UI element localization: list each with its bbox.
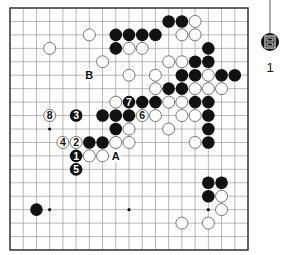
white-stone bbox=[123, 136, 135, 148]
black-stone bbox=[189, 55, 202, 68]
white-stone bbox=[176, 56, 188, 68]
white-stone bbox=[97, 56, 109, 68]
white-stone bbox=[176, 110, 188, 122]
white-stone bbox=[202, 217, 214, 229]
black-stone bbox=[202, 96, 215, 109]
white-stone bbox=[216, 204, 228, 216]
white-stone bbox=[149, 110, 161, 122]
white-stone bbox=[176, 96, 188, 108]
white-stone bbox=[83, 29, 95, 41]
star-point bbox=[207, 208, 210, 211]
white-stone bbox=[189, 110, 201, 122]
white-stone bbox=[176, 29, 188, 41]
white-stone bbox=[216, 83, 228, 95]
black-stone bbox=[202, 55, 215, 68]
white-stone bbox=[110, 96, 122, 108]
black-stone bbox=[83, 136, 96, 149]
black-stone bbox=[136, 96, 149, 109]
black-stone bbox=[189, 96, 202, 109]
black-stone bbox=[176, 15, 189, 28]
star-point bbox=[48, 208, 51, 211]
white-stone bbox=[149, 69, 161, 81]
white-stone bbox=[163, 96, 175, 108]
black-stone bbox=[202, 190, 215, 203]
black-stone bbox=[109, 109, 122, 122]
white-stone bbox=[189, 136, 201, 148]
black-stone bbox=[136, 29, 149, 42]
black-stone bbox=[30, 203, 43, 216]
point-label: B bbox=[85, 69, 93, 81]
black-stone bbox=[109, 29, 122, 42]
black-stone bbox=[123, 109, 136, 122]
black-stone bbox=[123, 29, 136, 42]
move-number: 4 bbox=[60, 136, 66, 148]
move-number: 1 bbox=[73, 150, 79, 162]
white-stone bbox=[189, 15, 201, 27]
black-stone bbox=[109, 42, 122, 55]
black-stone bbox=[149, 96, 162, 109]
side-marker: 1 bbox=[261, 0, 279, 75]
move-number: 3 bbox=[73, 109, 79, 121]
black-stone bbox=[228, 69, 241, 82]
white-stone bbox=[83, 150, 95, 162]
black-stone bbox=[202, 176, 215, 189]
black-stone bbox=[202, 42, 215, 55]
move-number: 6 bbox=[139, 109, 145, 121]
white-stone bbox=[97, 150, 109, 162]
white-stone bbox=[163, 56, 175, 68]
black-stone bbox=[176, 69, 189, 82]
star-point bbox=[127, 208, 130, 211]
black-stone bbox=[96, 109, 109, 122]
white-stone bbox=[44, 42, 56, 54]
white-stone bbox=[163, 123, 175, 135]
white-stone bbox=[136, 42, 148, 54]
black-stone bbox=[176, 82, 189, 95]
move-number: 5 bbox=[73, 163, 79, 175]
white-stone bbox=[189, 83, 201, 95]
go-diagram: 12345678AB 1 bbox=[0, 0, 281, 255]
white-stone bbox=[123, 69, 135, 81]
white-stone bbox=[202, 83, 214, 95]
white-stone bbox=[189, 29, 201, 41]
book-icon bbox=[261, 33, 279, 51]
board-labels: 12345678AB bbox=[47, 69, 146, 175]
white-stone bbox=[149, 83, 161, 95]
stones bbox=[30, 15, 241, 229]
black-stone bbox=[96, 136, 109, 149]
black-stone bbox=[189, 69, 202, 82]
black-stone bbox=[202, 123, 215, 136]
marker-label: 1 bbox=[266, 60, 273, 75]
black-stone bbox=[202, 109, 215, 122]
black-stone bbox=[215, 176, 228, 189]
black-stone bbox=[215, 69, 228, 82]
black-stone bbox=[162, 82, 175, 95]
white-stone bbox=[110, 136, 122, 148]
black-stone bbox=[149, 29, 162, 42]
point-label: A bbox=[112, 150, 120, 162]
black-stone bbox=[109, 123, 122, 136]
white-stone bbox=[216, 190, 228, 202]
move-number: 8 bbox=[47, 109, 53, 121]
black-stone bbox=[162, 15, 175, 28]
star-point bbox=[48, 127, 51, 130]
white-stone bbox=[123, 123, 135, 135]
black-stone bbox=[202, 136, 215, 149]
move-number: 2 bbox=[73, 136, 79, 148]
white-stone bbox=[123, 42, 135, 54]
white-stone bbox=[202, 69, 214, 81]
go-board: 12345678AB 1 bbox=[0, 0, 281, 255]
move-number: 7 bbox=[126, 96, 132, 108]
white-stone bbox=[176, 217, 188, 229]
